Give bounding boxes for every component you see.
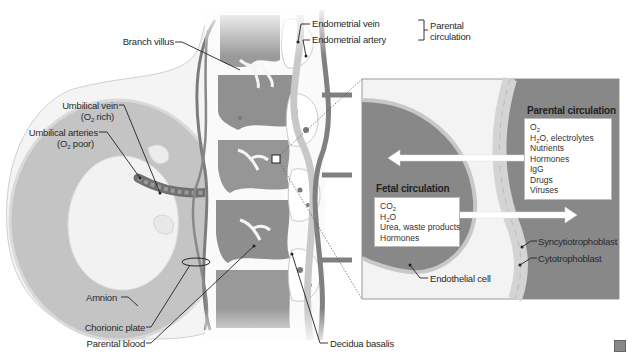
label-amnion: Amnion (86, 292, 117, 303)
parental-item: Hormones (530, 154, 606, 165)
label-umbilical-vein: Umbilical vein (50, 100, 118, 111)
label-endometrial-vein: Endometrial vein (312, 18, 380, 29)
fetal-item-h2o: H2O (380, 212, 454, 223)
parental-item-o2: O2 (530, 122, 606, 133)
fetal-item: Hormones (380, 233, 454, 244)
label-endometrial-artery: Endometrial artery (312, 34, 386, 45)
parental-item: Nutrients (530, 143, 606, 154)
placenta-column (182, 5, 352, 350)
label-chorionic-plate: Chorionic plate (60, 322, 145, 333)
label-umbilical-arteries: Umbilical arteries (20, 127, 98, 138)
parental-item: Drugs (530, 175, 606, 186)
publisher-logo-icon (614, 340, 626, 352)
fetal-item: Urea, waste products (380, 222, 454, 233)
label-endothelial-cell: Endothelial cell (430, 273, 491, 284)
parental-item: Viruses (530, 185, 606, 196)
label-syncytiotrophoblast: Syncytiotrophoblast (538, 236, 617, 247)
parental-item-h2o: H2O, electrolytes (530, 133, 606, 144)
fetal-item-co2: CO2 (380, 201, 454, 212)
label-parental-blood: Parental blood (60, 338, 145, 349)
label-umbilical-vein-note: (O2 rich) (50, 111, 114, 122)
label-parental-circulation-bracket: Parental circulation (430, 20, 478, 42)
inset-parental-title: Parental circulation (527, 105, 616, 116)
parental-item: IgG (530, 164, 606, 175)
inset-fetal-title: Fetal circulation (376, 183, 449, 194)
amniotic-sac (7, 10, 226, 340)
label-decidua-basalis: Decidua basalis (330, 338, 394, 349)
label-branch-villus: Branch villus (110, 36, 174, 47)
fetal-items-box: CO2 H2O Urea, waste products Hormones (374, 197, 460, 247)
parental-items-box: O2 H2O, electrolytes Nutrients Hormones … (524, 118, 612, 200)
label-cytotrophoblast: Cytotrophoblast (538, 253, 602, 264)
label-umbilical-arteries-note: (O2 poor) (20, 138, 94, 149)
